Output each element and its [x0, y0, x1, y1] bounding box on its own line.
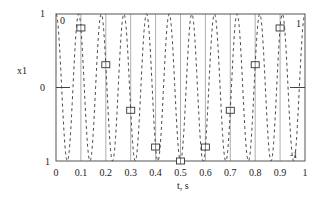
y-axis-label: x1 [17, 66, 27, 76]
vertical-gridlines [81, 14, 280, 161]
corner-label-top-left: 0 [60, 16, 65, 26]
x-tick-label: 0.9 [274, 167, 287, 178]
x-tick-label: 0.4 [149, 167, 162, 178]
x-axis-label: t, s [177, 181, 189, 191]
corner-label-top-right: 1 [296, 19, 301, 29]
x-tick-label: 0.5 [174, 167, 187, 178]
x-tick-label: 0 [54, 167, 59, 178]
x-tick-label: 0.7 [224, 167, 237, 178]
y-tick-bottom: 1 [45, 157, 50, 167]
x-tick-label: 1 [303, 167, 308, 178]
x-tick-label: 0.3 [124, 167, 137, 178]
chart-canvas: 00.10.20.30.40.50.60.70.80.91 [0, 0, 323, 198]
x-tick-label: 0.2 [100, 167, 113, 178]
corner-label-bottom-right: -1 [290, 150, 298, 160]
y-tick-zero: 0 [40, 83, 45, 93]
y-tick-top: 1 [40, 9, 45, 19]
x-tick-label: 0.6 [199, 167, 212, 178]
x-tick-label: 0.8 [249, 167, 262, 178]
x-tick-label: 0.1 [75, 167, 88, 178]
x-tick-labels: 00.10.20.30.40.50.60.70.80.91 [54, 167, 308, 178]
